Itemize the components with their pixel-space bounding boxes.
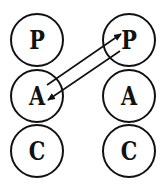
arrow-right-parent-to-left-adult [48, 51, 120, 100]
left-adult-label: A [28, 81, 46, 112]
right-parent-label: P [121, 25, 137, 56]
right-child-label: C [121, 136, 138, 167]
transactions [47, 34, 121, 100]
pac-diagram: P A C P A C [0, 0, 167, 194]
left-parent-state: P [11, 14, 63, 66]
left-child-label: C [29, 136, 46, 167]
right-adult-label: A [120, 81, 138, 112]
right-person: P A C [103, 14, 155, 177]
left-parent-label: P [29, 25, 45, 56]
right-adult-state: A [103, 70, 155, 122]
left-child-state: C [11, 125, 63, 177]
right-child-state: C [103, 125, 155, 177]
